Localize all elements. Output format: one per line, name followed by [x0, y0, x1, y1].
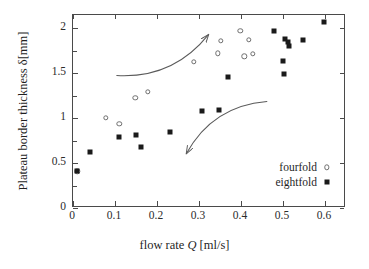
- y-minor-tick: [73, 141, 77, 142]
- y-tick: [73, 163, 78, 164]
- data-point-eightfold: [134, 132, 139, 137]
- y-minor-tick: [73, 186, 77, 187]
- x-tick-top: [241, 15, 242, 19]
- x-tick: [115, 201, 116, 206]
- data-point-fourfold: [116, 121, 121, 126]
- scatter-chart-figure: Plateau border thickness δ[mm] fourfold …: [0, 0, 369, 269]
- x-axis-title: flow rate Q [ml/s]: [0, 238, 369, 253]
- chart-legend: fourfold eightfold: [275, 160, 330, 190]
- data-point-eightfold: [301, 38, 306, 43]
- legend-label-fourfold: fourfold: [279, 160, 317, 175]
- y-tick-right: [340, 28, 344, 29]
- x-tick: [241, 201, 242, 206]
- y-axis-title: Plateau border thickness δ[mm]: [14, 14, 32, 207]
- data-point-eightfold: [139, 145, 144, 150]
- x-tick: [73, 201, 74, 206]
- legend-item-fourfold: fourfold: [275, 160, 330, 175]
- y-axis-title-text: Plateau border thickness δ[mm]: [16, 31, 31, 190]
- data-point-fourfold: [218, 38, 223, 43]
- y-tick-label: 1: [36, 111, 66, 123]
- y-tick: [73, 73, 78, 74]
- legend-label-eightfold: eightfold: [275, 175, 317, 190]
- data-point-eightfold: [167, 130, 172, 135]
- x-tick-label: 0: [69, 210, 75, 222]
- x-tick: [325, 201, 326, 206]
- x-tick: [157, 201, 158, 206]
- data-point-eightfold: [87, 149, 92, 154]
- data-point-fourfold: [145, 89, 150, 94]
- x-tick-label: 0.2: [149, 210, 163, 222]
- y-minor-tick: [73, 51, 77, 52]
- data-point-fourfold: [242, 54, 247, 59]
- x-tick-label: 0.4: [233, 210, 247, 222]
- y-tick: [73, 118, 78, 119]
- y-tick-label: 2: [36, 22, 66, 34]
- y-tick-label: 0.5: [36, 156, 66, 168]
- x-tick-top: [157, 15, 158, 19]
- x-tick-label: 0.1: [107, 210, 121, 222]
- x-tick-label: 0.6: [317, 210, 331, 222]
- data-point-fourfold: [103, 115, 108, 120]
- data-point-fourfold: [215, 51, 220, 56]
- x-tick-top: [115, 15, 116, 19]
- open-circle-icon: [323, 164, 330, 171]
- y-tick: [73, 28, 78, 29]
- data-point-eightfold: [281, 71, 286, 76]
- y-minor-tick: [73, 96, 77, 97]
- x-tick: [283, 201, 284, 206]
- x-axis-title-post: [ml/s]: [196, 238, 229, 252]
- x-axis-title-pre: flow rate: [140, 238, 188, 252]
- x-tick-top: [283, 15, 284, 19]
- data-point-fourfold: [250, 51, 255, 56]
- x-tick-top: [73, 15, 74, 19]
- data-point-eightfold: [281, 58, 286, 63]
- x-tick-top: [325, 15, 326, 19]
- legend-item-eightfold: eightfold: [275, 175, 330, 190]
- data-point-eightfold: [117, 135, 122, 140]
- x-tick: [199, 201, 200, 206]
- data-point-fourfold: [191, 59, 196, 64]
- x-tick-label: 0.5: [275, 210, 289, 222]
- y-tick-label: 0: [36, 201, 66, 213]
- y-tick-right: [340, 163, 344, 164]
- filled-square-icon: [323, 179, 330, 186]
- y-tick-right: [340, 118, 344, 119]
- y-tick-label: 1.5: [36, 67, 66, 79]
- x-tick-top: [199, 15, 200, 19]
- data-point-fourfold: [246, 37, 251, 42]
- data-point-eightfold: [287, 44, 292, 49]
- data-point-fourfold: [237, 28, 242, 33]
- data-point-eightfold: [271, 28, 276, 33]
- y-tick-right: [340, 208, 344, 209]
- y-tick-right: [340, 73, 344, 74]
- x-tick-label: 0.3: [191, 210, 205, 222]
- data-point-eightfold: [322, 19, 327, 24]
- data-point-eightfold: [200, 108, 205, 113]
- data-point-eightfold: [225, 75, 230, 80]
- data-point-fourfold: [132, 95, 137, 100]
- plot-frame: fourfold eightfold: [72, 14, 345, 207]
- data-point-eightfold: [217, 107, 222, 112]
- data-point-eightfold: [75, 169, 80, 174]
